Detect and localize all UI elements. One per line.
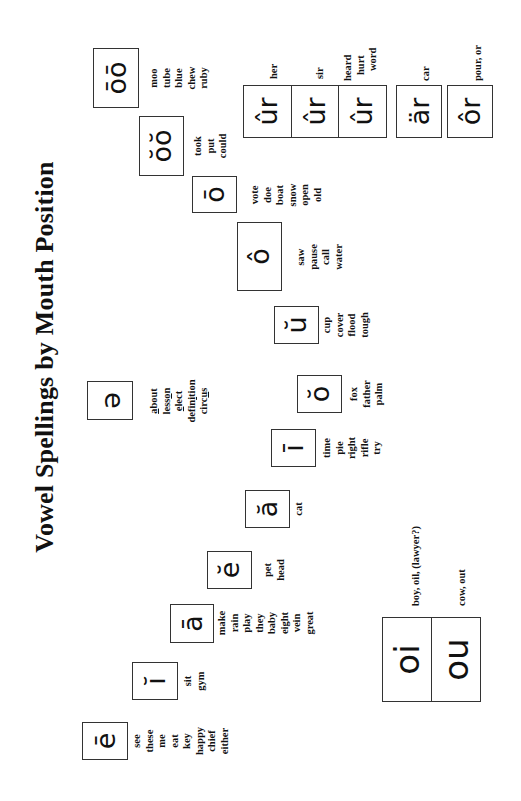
word-list-short-e: pet head xyxy=(262,548,287,592)
vowel-symbol: ŏ xyxy=(306,386,333,403)
vowel-symbol: ŏŏ xyxy=(148,129,175,162)
or-label: pour, or xyxy=(472,45,483,81)
ur-label-heard: heard hurt word xyxy=(342,33,380,81)
vowel-symbol: ī xyxy=(280,444,307,452)
word-list-long-i: time pie right rifle try xyxy=(321,425,384,471)
diphthong-oi-label: boy, oil, (lawyer?) xyxy=(410,526,421,606)
ur-cell-sir: ûr xyxy=(292,86,340,137)
vowel-symbol: ē xyxy=(92,733,119,750)
vowel-box-short-u: ŭ xyxy=(274,306,319,344)
ur-label-sir: sir xyxy=(314,67,325,79)
word-list-long-o: vote doe boat snow open old xyxy=(249,171,324,219)
vowel-box-schwa: ə xyxy=(87,381,133,420)
vowel-box-long-i: ī xyxy=(271,429,316,467)
vowel-box-short-a: ă xyxy=(245,490,290,528)
vowel-box-short-oo: ŏŏ xyxy=(139,116,184,176)
vowel-symbol: ə xyxy=(97,392,124,409)
word-list-schwa: about lesson elect definition circus xyxy=(148,371,211,431)
r-controlled-or-box: ôr xyxy=(447,85,493,138)
vowel-symbol: ă xyxy=(254,501,281,518)
word-list-short-oo: took put could xyxy=(192,123,230,169)
vowel-symbol: ĕ xyxy=(216,562,243,579)
vowel-symbol: ā xyxy=(179,615,206,632)
diphthong-oi: oi xyxy=(383,618,432,701)
ur-label-her: her xyxy=(268,64,279,79)
word-list-short-a: cat xyxy=(293,487,306,531)
vowel-symbol: ōō xyxy=(103,61,130,94)
chart-title: Vowel Spellings by Mouth Position xyxy=(30,104,60,610)
diphthong-ou: ou xyxy=(432,618,480,701)
vowel-box-broad-o: ô xyxy=(237,222,282,291)
vowel-symbol: ĭ xyxy=(142,677,169,685)
vowel-symbol: ō xyxy=(201,186,228,203)
ar-label: car xyxy=(420,66,431,81)
vowel-box-long-oo: ōō xyxy=(93,48,139,108)
vowel-box-short-i: ĭ xyxy=(132,662,178,700)
diphthong-box: oi ou xyxy=(382,617,481,702)
vowel-symbol: ô xyxy=(246,248,273,265)
word-list-short-i: sit gym xyxy=(182,659,207,703)
vowel-box-long-o: ō xyxy=(192,176,237,213)
vowel-box-short-e: ĕ xyxy=(207,551,252,589)
r-controlled-ar-box: är xyxy=(396,85,442,138)
word-list-short-u: cup cover flood tough xyxy=(321,302,371,348)
ur-cell-her: ûr xyxy=(244,86,292,137)
r-controlled-ur-group: ûr ûr ûr xyxy=(243,85,387,138)
word-list-short-o: fox father palm xyxy=(348,369,386,419)
word-list-long-e: see these me eat key happy chief either xyxy=(131,716,231,766)
vowel-box-short-o: ŏ xyxy=(297,375,342,413)
word-list-broad-o: saw pause call water xyxy=(295,232,345,282)
word-list-long-a: make rain play they baby eight vein grea… xyxy=(216,600,316,646)
word-list-long-oo: moo tube blue chew ruby xyxy=(148,55,211,101)
vowel-symbol: ŭ xyxy=(283,316,310,333)
vowel-box-long-a: ā xyxy=(170,604,214,643)
vowel-chart: Vowel Spellings by Mouth Position ē see … xyxy=(0,0,521,801)
vowel-box-long-e: ē xyxy=(82,722,128,760)
diphthong-ou-label: cow, out xyxy=(456,569,467,606)
ur-cell-heard: ûr xyxy=(339,86,386,137)
